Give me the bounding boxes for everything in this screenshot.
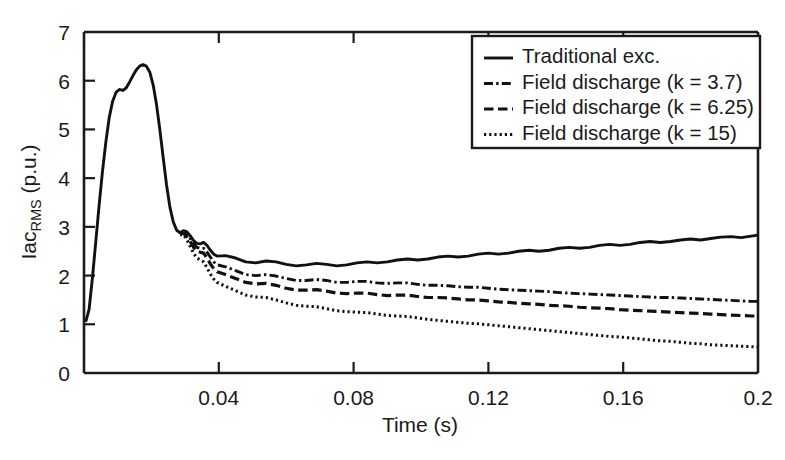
x-axis-tick-labels: 0.040.080.120.160.2 <box>198 386 772 409</box>
legend-label-1: Field discharge (k = 3.7) <box>522 70 742 93</box>
y-tick-label-1: 1 <box>58 313 70 336</box>
x-tick-label-0.12: 0.12 <box>468 386 509 409</box>
y-tick-label-2: 2 <box>58 265 70 288</box>
y-axis-title-subscript: RMS <box>28 199 44 231</box>
y-axis-title-main: Iac <box>17 232 40 260</box>
legend-label-3: Field discharge (k = 15) <box>522 121 737 144</box>
svg-text:IacRMS (p.u.): IacRMS (p.u.) <box>17 144 44 259</box>
x-tick-label-0.08: 0.08 <box>333 386 374 409</box>
y-tick-label-4: 4 <box>58 167 70 190</box>
y-axis-title-unit: (p.u.) <box>17 144 40 199</box>
x-axis-title: Time (s) <box>382 413 458 436</box>
legend-item-3[interactable]: Field discharge (k = 15) <box>484 121 737 144</box>
legend-label-0: Traditional exc. <box>522 44 660 67</box>
legend-item-1[interactable]: Field discharge (k = 3.7) <box>484 70 742 93</box>
y-tick-label-0: 0 <box>58 362 70 385</box>
y-tick-label-3: 3 <box>58 216 70 239</box>
x-tick-label-0.04: 0.04 <box>198 386 239 409</box>
legend-item-2[interactable]: Field discharge (k = 6.25) <box>484 95 754 118</box>
x-tick-label-0.2: 0.2 <box>743 386 772 409</box>
series-line-3 <box>180 235 758 348</box>
series-line-2 <box>180 233 758 316</box>
x-tick-label-0.16: 0.16 <box>603 386 644 409</box>
y-tick-label-5: 5 <box>58 118 70 141</box>
legend-label-2: Field discharge (k = 6.25) <box>522 95 754 118</box>
y-tick-label-7: 7 <box>58 21 70 44</box>
current-vs-time-chart: 01234567 0.040.080.120.160.2 IacRMS (p.u… <box>0 0 785 460</box>
y-tick-label-6: 6 <box>58 70 70 93</box>
y-axis-title: IacRMS (p.u.) <box>17 144 44 259</box>
chart-legend: Traditional exc.Field discharge (k = 3.7… <box>472 36 760 148</box>
y-axis-ticks <box>84 81 95 325</box>
figure-container: 01234567 0.040.080.120.160.2 IacRMS (p.u… <box>0 0 785 460</box>
y-axis-tick-labels: 01234567 <box>58 21 70 385</box>
